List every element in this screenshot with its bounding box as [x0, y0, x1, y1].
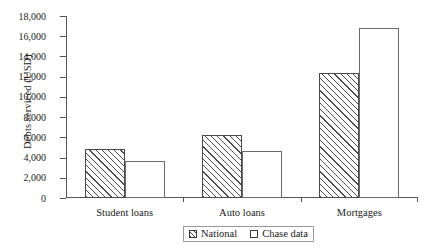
y-axis-tick — [60, 16, 66, 17]
x-axis-category-label: Mortgages — [337, 207, 382, 218]
bar-national — [319, 73, 359, 198]
y-axis-tick — [60, 178, 66, 179]
y-axis-tick-label: 8,000 — [0, 117, 46, 118]
x-axis-category-label: Auto loans — [219, 207, 265, 218]
bar-chase-data — [359, 28, 399, 198]
bar-national — [202, 135, 242, 198]
y-axis-line — [66, 16, 67, 198]
y-axis-tick-label: 10,000 — [0, 96, 46, 97]
plot-area: 02,0004,0006,0008,00010,00012,00014,0001… — [66, 16, 418, 198]
y-axis-tick — [60, 97, 66, 98]
bar-national — [85, 149, 125, 198]
y-axis-tick-label: 4,000 — [0, 157, 46, 158]
y-axis-tick — [60, 117, 66, 118]
x-axis-tick — [301, 198, 302, 202]
y-axis-tick — [60, 137, 66, 138]
legend-swatch-national-icon — [189, 230, 197, 238]
legend-item-national: National — [189, 228, 237, 239]
y-axis-tick — [60, 158, 66, 159]
y-axis-tick — [60, 198, 66, 199]
y-axis-tick-label: 6,000 — [0, 137, 46, 138]
y-axis-tick-label: 12,000 — [0, 76, 46, 77]
y-axis-tick-label: 18,000 — [0, 16, 46, 17]
legend-label-chase-data: Chase data — [262, 228, 308, 239]
legend-swatch-chase-icon — [250, 230, 258, 238]
bar-chase-data — [125, 161, 165, 198]
y-axis-tick — [60, 56, 66, 57]
y-axis-tick — [60, 36, 66, 37]
x-axis-category-label: Student loans — [96, 207, 153, 218]
x-axis-tick — [183, 198, 184, 202]
chart-legend: National Chase data — [183, 226, 314, 242]
legend-item-chase-data: Chase data — [250, 228, 308, 239]
legend-label-national: National — [201, 228, 237, 239]
bar-chart-figure: Debts serviced (USD) 02,0004,0006,0008,0… — [0, 0, 430, 250]
y-axis-tick — [60, 77, 66, 78]
bar-chase-data — [242, 151, 282, 198]
y-axis-tick-label: 0 — [0, 198, 46, 199]
y-axis-tick-label: 2,000 — [0, 177, 46, 178]
x-axis-tick — [417, 198, 418, 202]
y-axis-tick-label: 14,000 — [0, 56, 46, 57]
y-axis-tick-label: 16,000 — [0, 36, 46, 37]
